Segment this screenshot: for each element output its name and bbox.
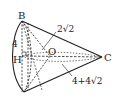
segment-B-lower	[22, 21, 42, 90]
label-O: O	[48, 46, 56, 57]
label-slant: 4+4√2	[72, 76, 102, 86]
segment-BO	[22, 21, 50, 56]
label-radius: 2√2	[57, 24, 74, 34]
base-arc-back	[22, 21, 31, 92]
label-H: H	[13, 54, 22, 65]
label-height: 4	[12, 39, 18, 49]
label-B: B	[18, 10, 25, 21]
axis-HC	[22, 56, 102, 57]
label-C: C	[104, 52, 112, 63]
right-angle-mark	[22, 52, 26, 56]
cone-diagram: B H O C 4 2√2 4+4√2	[0, 0, 121, 101]
slant-edge-bottom	[24, 57, 102, 92]
